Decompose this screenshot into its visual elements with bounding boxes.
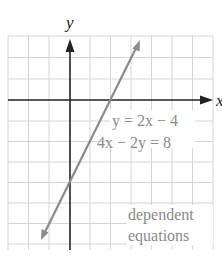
- y-axis: [66, 39, 75, 250]
- line-arrow-top-icon: [133, 40, 141, 52]
- y-axis-arrow-icon: [66, 39, 75, 52]
- graph: y x y = 2x − 4 4x − 2y = 8 dependent equ…: [0, 0, 222, 256]
- x-axis-label: x: [215, 91, 222, 110]
- note-line-2: equations: [128, 227, 189, 245]
- equation-2: 4x − 2y = 8: [97, 134, 171, 152]
- note-line-1: dependent: [128, 206, 194, 224]
- x-axis-arrow-icon: [200, 96, 213, 105]
- equation-1: y = 2x − 4: [112, 112, 178, 130]
- y-axis-label: y: [64, 13, 74, 32]
- line-arrow-bottom-icon: [41, 229, 49, 240]
